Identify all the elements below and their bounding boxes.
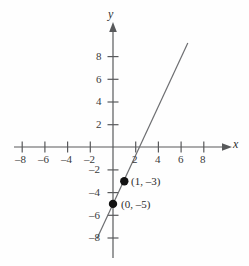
y-axis-arrow-icon xyxy=(109,22,117,32)
data-point-0-neg5 xyxy=(109,200,117,208)
x-tick-label-2: 2 xyxy=(132,154,138,165)
x-axis-arrow-icon xyxy=(222,143,232,151)
x-tick-label-6: 6 xyxy=(178,154,184,165)
y-tick-label-2: 2 xyxy=(96,119,102,130)
point-label-0-neg5: (0, –5) xyxy=(121,199,150,210)
y-tick-label--4: –4 xyxy=(89,187,100,198)
x-tick-label--4: –4 xyxy=(61,154,72,165)
y-tick-label-6: 6 xyxy=(96,74,102,85)
x-tick-label--8: –8 xyxy=(15,154,26,165)
x-tick-label-4: 4 xyxy=(155,154,161,165)
y-tick-label--6: –6 xyxy=(89,210,100,221)
x-axis-label: x xyxy=(233,138,238,150)
y-tick-label-4: 4 xyxy=(96,96,102,107)
y-axis-label: y xyxy=(108,8,113,20)
point-label-1-neg3: (1, –3) xyxy=(131,176,160,187)
y-tick-label-8: 8 xyxy=(96,51,102,62)
x-tick-label-8: 8 xyxy=(200,154,206,165)
coordinate-plane xyxy=(0,0,249,266)
y-tick-label--2: –2 xyxy=(89,164,100,175)
data-point-1-neg3 xyxy=(120,177,128,185)
graph-figure: x y –8 –6 –4 –2 2 4 6 8 8 6 4 2 –2 –4 –6… xyxy=(0,0,249,266)
x-tick-label--6: –6 xyxy=(38,154,49,165)
y-tick-label--8: –8 xyxy=(89,232,100,243)
